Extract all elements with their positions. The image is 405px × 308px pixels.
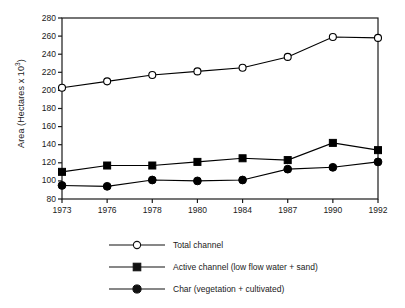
chart-legend: Total channel Active channel (low flow w… — [108, 234, 398, 300]
legend-label-total-channel: Total channel — [166, 241, 223, 250]
data-point — [59, 84, 66, 91]
legend-label-char: Char (vegetation + cultivated) — [166, 285, 284, 294]
data-point — [375, 147, 382, 154]
data-point — [284, 157, 291, 164]
legend-symbol-filled-square — [108, 260, 166, 274]
legend-item-total-channel: Total channel — [108, 234, 398, 256]
data-point — [239, 155, 246, 162]
data-point — [239, 176, 247, 184]
data-point — [104, 162, 111, 169]
data-point — [103, 182, 111, 190]
data-point — [149, 72, 156, 79]
plot-frame — [62, 18, 378, 199]
data-point — [148, 176, 156, 184]
data-point — [58, 182, 66, 190]
data-point — [284, 165, 292, 173]
data-point — [329, 34, 336, 41]
data-point — [59, 168, 66, 175]
chart-figure: Area (Hectares x 103) 280260240220200180… — [0, 0, 405, 308]
data-point — [104, 78, 111, 85]
data-point — [149, 162, 156, 169]
data-point — [194, 177, 202, 185]
data-point — [194, 68, 201, 75]
data-point — [239, 64, 246, 71]
legend-item-char: Char (vegetation + cultivated) — [108, 278, 398, 300]
legend-symbol-filled-circle — [108, 282, 166, 296]
legend-symbol-open-circle — [108, 238, 166, 252]
legend-label-active-channel: Active channel (low flow water + sand) — [166, 263, 318, 272]
data-point — [284, 53, 291, 60]
legend-item-active-channel: Active channel (low flow water + sand) — [108, 256, 398, 278]
data-point — [329, 139, 336, 146]
data-point — [374, 158, 382, 166]
data-point — [329, 163, 337, 171]
data-point — [194, 158, 201, 165]
data-point — [375, 34, 382, 41]
